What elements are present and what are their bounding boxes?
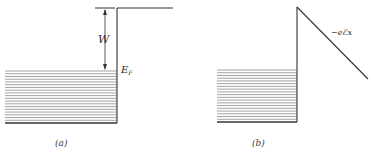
panel-a-diagram (5, 8, 173, 123)
panel-a-caption: (a) (55, 139, 67, 148)
energy-diagrams (0, 0, 371, 153)
panel-a-filled-levels (5, 71, 117, 120)
fermi-level-sub: F (128, 69, 132, 76)
fermi-level-label: EF (121, 65, 132, 76)
field-potential-label: −eℰx (331, 29, 352, 37)
work-function-arrow-up-icon (103, 9, 107, 15)
work-function-label: W (98, 34, 109, 45)
work-function-arrow-down-icon (103, 64, 107, 70)
panel-b-diagram (217, 7, 368, 122)
panel-b-field-slope (297, 7, 368, 79)
panel-b-caption: (b) (252, 139, 265, 148)
panel-b-filled-levels (217, 70, 297, 119)
